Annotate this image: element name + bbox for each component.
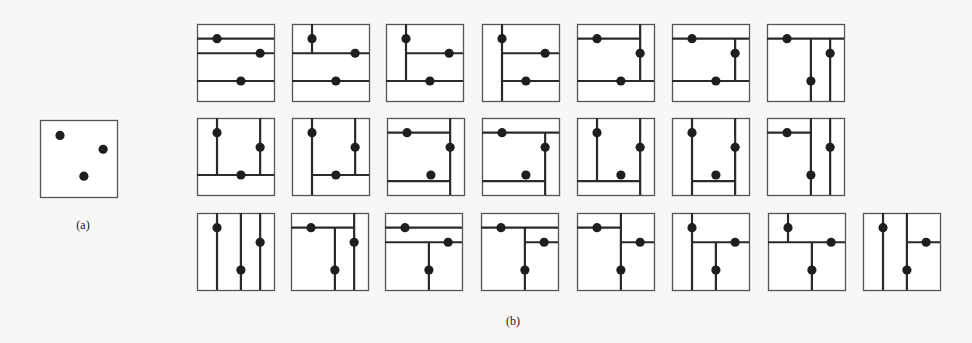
- point-dot: [731, 143, 740, 152]
- point-dot: [616, 76, 625, 85]
- partition-box: [292, 214, 369, 291]
- partition-box: [673, 119, 750, 196]
- point-dot: [330, 265, 339, 274]
- partition-15: [198, 213, 275, 291]
- partition-12: [577, 118, 655, 196]
- partition-7: [767, 25, 845, 102]
- point-dot: [444, 238, 453, 247]
- point-dot: [425, 76, 434, 85]
- point-dot: [592, 128, 601, 137]
- partition-3: [386, 24, 464, 102]
- point-dot: [711, 265, 720, 274]
- partition-16: [291, 213, 369, 291]
- point-dot: [807, 265, 816, 274]
- point-dot: [350, 238, 359, 247]
- point-dot: [212, 128, 221, 137]
- point-dot: [497, 128, 506, 137]
- partition-box: [578, 214, 655, 291]
- point-dot: [731, 49, 740, 58]
- partition-box: [387, 25, 464, 102]
- partition-box: [386, 214, 463, 291]
- point-dot: [400, 223, 409, 232]
- partition-box: [482, 214, 559, 291]
- point-dot: [826, 49, 835, 58]
- point-dot: [783, 223, 792, 232]
- point-dot: [424, 265, 433, 274]
- partition-10: [387, 118, 465, 196]
- panel-a-caption: (a): [76, 218, 89, 233]
- partition-box: [578, 25, 655, 102]
- point-dot: [236, 170, 245, 179]
- point-dot: [496, 223, 505, 232]
- point-dot: [351, 49, 360, 58]
- figure-canvas: [0, 0, 972, 343]
- partition-box: [198, 119, 275, 196]
- point-dot: [521, 76, 530, 85]
- point-dot: [236, 76, 245, 85]
- point-dot: [636, 49, 645, 58]
- point-dot: [592, 223, 601, 232]
- point-dot: [687, 34, 696, 43]
- point-dot: [731, 238, 740, 247]
- point-dot: [79, 172, 88, 181]
- point-dot: [99, 145, 108, 154]
- point-dot: [806, 170, 815, 179]
- partition-19: [577, 213, 655, 291]
- partition-11: [482, 119, 560, 196]
- partition-box: [483, 25, 560, 102]
- partition-22: [864, 213, 941, 291]
- point-dot: [401, 34, 410, 43]
- point-dot: [541, 143, 550, 152]
- partition-2: [292, 24, 370, 102]
- point-dot: [256, 49, 265, 58]
- partition-14: [767, 118, 845, 196]
- point-dot: [806, 76, 815, 85]
- partition-box: [864, 214, 941, 291]
- partition-box: [293, 25, 370, 102]
- partition-4: [483, 24, 560, 102]
- partition-6: [672, 25, 750, 102]
- partition-box: [41, 121, 118, 198]
- point-dot: [307, 34, 316, 43]
- point-dot: [497, 34, 506, 43]
- point-dot: [687, 128, 696, 137]
- point-dot: [426, 170, 435, 179]
- panel-b-caption: (b): [506, 314, 520, 329]
- point-dot: [616, 170, 625, 179]
- point-dot: [826, 143, 835, 152]
- point-dot: [592, 34, 601, 43]
- point-dot: [236, 265, 245, 274]
- point-dot: [256, 143, 265, 152]
- point-dot: [711, 170, 720, 179]
- partition-box: [768, 25, 845, 102]
- point-dot: [256, 238, 265, 247]
- partition-box: [293, 119, 370, 196]
- partition-box: [673, 25, 750, 102]
- partition-8: [197, 118, 275, 196]
- partition-box: [768, 119, 845, 196]
- panel-a-box: [41, 121, 118, 198]
- point-dot: [782, 128, 791, 137]
- partition-21: [768, 213, 846, 291]
- point-dot: [922, 238, 931, 247]
- partition-17: [385, 214, 463, 291]
- point-dot: [541, 49, 550, 58]
- point-dot: [307, 128, 316, 137]
- point-dot: [636, 238, 645, 247]
- partition-box: [673, 214, 750, 291]
- point-dot: [445, 49, 454, 58]
- point-dot: [212, 34, 221, 43]
- partition-13: [673, 118, 750, 196]
- partition-box: [388, 119, 465, 196]
- point-dot: [636, 143, 645, 152]
- point-dot: [351, 143, 360, 152]
- point-dot: [521, 170, 530, 179]
- partition-20: [673, 213, 750, 291]
- partition-box: [769, 214, 846, 291]
- point-dot: [782, 34, 791, 43]
- partition-5: [577, 24, 655, 102]
- point-dot: [687, 223, 696, 232]
- point-dot: [446, 143, 455, 152]
- partition-box: [578, 119, 655, 196]
- point-dot: [902, 265, 911, 274]
